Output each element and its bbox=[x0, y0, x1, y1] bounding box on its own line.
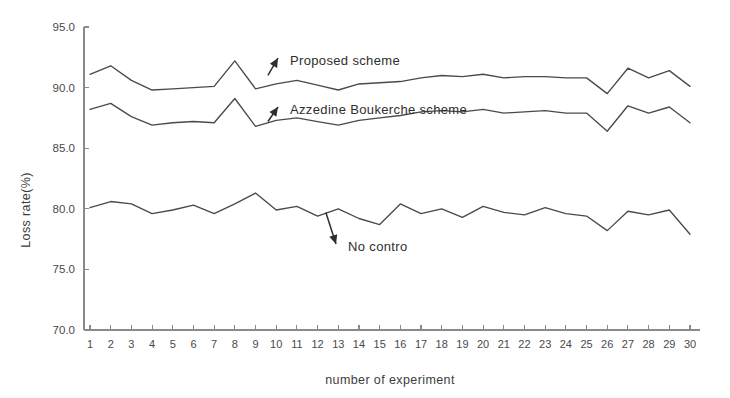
x-tick-label: 17 bbox=[415, 338, 427, 350]
y-axis-title: Loss rate(%) bbox=[19, 172, 33, 248]
x-tick-label: 14 bbox=[353, 338, 365, 350]
x-tick-label: 26 bbox=[601, 338, 613, 350]
x-tick-label: 8 bbox=[232, 338, 238, 350]
x-tick-label: 24 bbox=[560, 338, 572, 350]
x-tick-label: 10 bbox=[270, 338, 282, 350]
y-tick-label: 95.0 bbox=[53, 21, 75, 33]
x-tick-label: 13 bbox=[332, 338, 344, 350]
x-tick-label: 20 bbox=[477, 338, 489, 350]
y-tick-label: 75.0 bbox=[53, 263, 75, 275]
y-tick-label: 90.0 bbox=[53, 82, 75, 94]
x-axis-ticks: 1234567891011121314151617181920212223242… bbox=[87, 325, 696, 350]
y-tick-label: 70.0 bbox=[53, 324, 75, 336]
x-tick-label: 1 bbox=[87, 338, 93, 350]
x-tick-label: 4 bbox=[149, 338, 155, 350]
x-tick-label: 15 bbox=[374, 338, 386, 350]
y-tick-label: 85.0 bbox=[53, 142, 75, 154]
x-tick-label: 11 bbox=[291, 338, 302, 350]
x-tick-label: 18 bbox=[436, 338, 448, 350]
annotation-label-1: Azzedine Boukerche scheme bbox=[290, 102, 467, 117]
loss-rate-line-chart: 70.075.080.085.090.095.0 123456789101112… bbox=[0, 0, 730, 398]
y-tick-label: 80.0 bbox=[53, 203, 75, 215]
x-tick-label: 6 bbox=[190, 338, 196, 350]
x-tick-label: 30 bbox=[684, 338, 696, 350]
x-axis-title: number of experiment bbox=[325, 373, 455, 387]
annotation-arrowhead-2 bbox=[329, 234, 337, 244]
x-tick-label: 22 bbox=[518, 338, 530, 350]
chart-canvas: 70.075.080.085.090.095.0 123456789101112… bbox=[0, 0, 730, 398]
x-tick-label: 19 bbox=[456, 338, 468, 350]
x-tick-label: 25 bbox=[580, 338, 592, 350]
annotation-arrowhead-1 bbox=[269, 107, 278, 117]
x-tick-label: 2 bbox=[108, 338, 114, 350]
annotation-label-0: Proposed scheme bbox=[290, 53, 400, 68]
x-tick-label: 21 bbox=[498, 338, 510, 350]
series-line-2 bbox=[90, 193, 690, 234]
x-tick-label: 12 bbox=[311, 338, 323, 350]
data-series-group bbox=[90, 61, 690, 234]
x-tick-label: 16 bbox=[394, 338, 406, 350]
x-tick-label: 7 bbox=[211, 338, 217, 350]
x-tick-label: 29 bbox=[663, 338, 675, 350]
x-tick-label: 28 bbox=[642, 338, 654, 350]
x-tick-label: 27 bbox=[622, 338, 634, 350]
x-tick-label: 3 bbox=[128, 338, 134, 350]
x-tick-label: 9 bbox=[252, 338, 258, 350]
x-tick-label: 23 bbox=[539, 338, 551, 350]
annotation-label-2: No contro bbox=[348, 239, 408, 254]
x-tick-label: 5 bbox=[170, 338, 176, 350]
